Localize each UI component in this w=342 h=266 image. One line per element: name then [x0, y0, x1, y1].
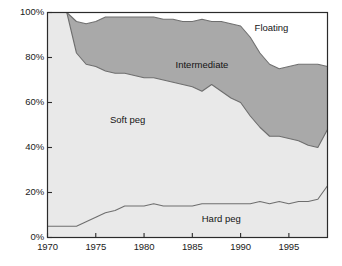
- chart-container: 0%20%40%60%80%100% 197019751980198519901…: [0, 0, 342, 266]
- series-label-intermediate: Intermediate: [176, 59, 229, 70]
- stacked-area-bands: [48, 13, 328, 238]
- x-tick-label-1975: 1975: [79, 241, 113, 252]
- x-tick-label-1995: 1995: [272, 241, 306, 252]
- x-tick-label-1985: 1985: [175, 241, 209, 252]
- series-label-hard-peg: Hard peg: [202, 213, 241, 224]
- y-tick-label-20: 20%: [25, 186, 44, 197]
- series-label-floating: Floating: [255, 22, 289, 33]
- y-tick-label-40: 40%: [25, 141, 44, 152]
- x-tick-label-1970: 1970: [31, 241, 65, 252]
- y-tick-label-60: 60%: [25, 96, 44, 107]
- x-tick-label-1980: 1980: [127, 241, 161, 252]
- x-tick-label-1990: 1990: [224, 241, 258, 252]
- y-tick-label-80: 80%: [25, 51, 44, 62]
- area-chart-svg: [0, 0, 342, 266]
- y-tick-label-100: 100%: [20, 6, 44, 17]
- series-label-soft-peg: Soft peg: [110, 114, 145, 125]
